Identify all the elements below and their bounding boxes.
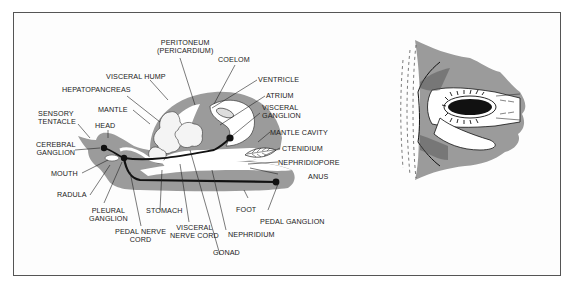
label-nephridiopore: NEPHRIDIOPORE xyxy=(278,159,340,167)
label-gonad: GONAD xyxy=(213,249,240,257)
label-mantle: MANTLE xyxy=(98,106,128,114)
label-atrium: ATRIUM xyxy=(266,92,294,100)
label-visceral-ganglion: VISCERAL GANGLION xyxy=(262,104,301,121)
label-nephridium: NEPHRIDIUM xyxy=(228,231,275,239)
label-stomach: STOMACH xyxy=(146,207,183,215)
ctenidium-detail xyxy=(401,40,526,180)
label-foot: FOOT xyxy=(236,206,256,214)
label-coelom: COELOM xyxy=(218,56,250,64)
label-peritoneum-line2: (PERICARDIUM) xyxy=(157,47,213,55)
label-pleural-ganglion: PLEURAL GANGLION xyxy=(89,207,128,224)
label-anus: ANUS xyxy=(308,173,328,181)
label-pedal-ganglion: PEDAL GANGLION xyxy=(260,218,325,226)
label-visceral-nerve-cord-line2: NERVE CORD xyxy=(170,232,219,240)
label-cerebral-ganglion-line2: GANGLION xyxy=(36,149,76,157)
label-pleural-ganglion-line2: GANGLION xyxy=(89,215,128,223)
label-visceral-hump: VISCERAL HUMP xyxy=(106,73,166,81)
label-radula: RADULA xyxy=(57,191,87,199)
label-pedal-nerve-cord: PEDAL NERVE CORD xyxy=(115,228,166,245)
label-sensory-tentacle: SENSORY TENTACLE xyxy=(38,110,76,127)
label-peritoneum: PERITONEUM (PERICARDIUM) xyxy=(157,39,213,56)
label-ventricle: VENTRICLE xyxy=(258,76,299,84)
label-ctenidium: CTENIDIUM xyxy=(282,145,323,153)
label-sensory-tentacle-line2: TENTACLE xyxy=(38,118,76,126)
label-visceral-ganglion-line2: GANGLION xyxy=(262,112,301,120)
label-cerebral-ganglion: CEREBRAL GANGLION xyxy=(36,141,76,158)
label-pedal-nerve-cord-line2: CORD xyxy=(115,236,166,244)
label-mantle-cavity: MANTLE CAVITY xyxy=(270,129,328,137)
label-hepatopancreas: HEPATOPANCREAS xyxy=(62,86,131,94)
label-visceral-nerve-cord: VISCERAL NERVE CORD xyxy=(170,224,219,241)
label-mouth: MOUTH xyxy=(51,170,78,178)
label-head: HEAD xyxy=(95,122,115,130)
